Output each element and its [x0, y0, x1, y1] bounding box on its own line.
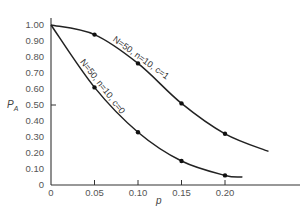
data-point [179, 159, 183, 163]
curve-line-0 [51, 25, 269, 151]
y-tick-label: 0.10 [18, 163, 44, 174]
data-point [92, 32, 96, 36]
data-point [136, 130, 140, 134]
y-axis-label: PA [7, 99, 18, 112]
y-tick-label: 0.80 [18, 51, 44, 62]
y-tick-label: 0.90 [18, 35, 44, 46]
y-tick-label: 0.20 [18, 147, 44, 158]
x-tick-label: 0.10 [123, 187, 153, 198]
y-tick-label: 0.40 [18, 115, 44, 126]
x-tick-label: 0 [36, 187, 66, 198]
data-point [223, 132, 227, 136]
data-point [223, 173, 227, 177]
plot-area [0, 0, 303, 218]
y-tick-label: 0.60 [18, 83, 44, 94]
oc-curve-chart: 1.000.900.800.700.600.500.400.300.200.10… [0, 0, 303, 218]
y-tick-label: 0.70 [18, 67, 44, 78]
x-tick-label: 0.15 [167, 187, 197, 198]
data-point [179, 101, 183, 105]
x-tick-label: 0.05 [80, 187, 110, 198]
y-tick-label: 0.50 [18, 99, 44, 110]
y-tick-label: 0.30 [18, 131, 44, 142]
y-tick-label: 1.00 [18, 19, 44, 30]
curve-line-1 [51, 25, 242, 177]
x-axis-label: p [156, 195, 162, 206]
x-tick-label: 0.20 [210, 187, 240, 198]
